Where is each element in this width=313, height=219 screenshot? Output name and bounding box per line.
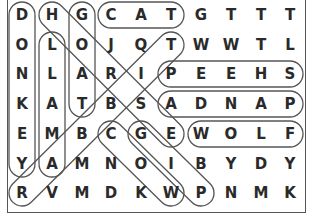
grid-cell[interactable]: Y — [277, 151, 303, 177]
grid-cell[interactable]: J — [98, 32, 124, 58]
grid-cell[interactable]: Q — [128, 32, 154, 58]
grid-cell[interactable]: A — [158, 91, 184, 117]
grid-cell[interactable]: L — [277, 32, 303, 58]
grid-cell[interactable]: W — [218, 32, 244, 58]
grid-cell[interactable]: O — [128, 151, 154, 177]
grid-cell[interactable]: R — [98, 61, 124, 87]
grid-cell[interactable]: O — [9, 32, 35, 58]
grid-cell[interactable]: M — [69, 180, 95, 206]
grid-cell[interactable]: I — [158, 151, 184, 177]
grid-cell[interactable]: E — [158, 121, 184, 147]
grid-cell[interactable]: G — [188, 2, 214, 28]
grid-cell[interactable]: T — [158, 2, 184, 28]
grid-cell[interactable]: S — [277, 61, 303, 87]
grid-cell[interactable]: M — [39, 121, 65, 147]
grid-cell[interactable]: A — [39, 91, 65, 117]
grid-cell[interactable]: B — [69, 121, 95, 147]
grid-cell[interactable]: D — [188, 91, 214, 117]
grid-cell[interactable]: M — [69, 151, 95, 177]
grid-cell[interactable]: T — [158, 32, 184, 58]
grid-cell[interactable]: R — [9, 180, 35, 206]
grid-cell[interactable]: G — [128, 121, 154, 147]
grid-cell[interactable]: B — [188, 151, 214, 177]
grid-cell[interactable]: L — [39, 61, 65, 87]
grid-cell[interactable]: A — [39, 151, 65, 177]
grid-cell[interactable]: M — [248, 180, 274, 206]
grid-cell[interactable]: G — [69, 2, 95, 28]
grid-cell[interactable]: A — [128, 2, 154, 28]
grid-cell[interactable]: Y — [218, 151, 244, 177]
grid-cell[interactable]: B — [98, 91, 124, 117]
grid-cell[interactable]: D — [9, 2, 35, 28]
grid-cell[interactable]: A — [248, 91, 274, 117]
grid-cell[interactable]: T — [248, 32, 274, 58]
grid-cell[interactable]: N — [9, 61, 35, 87]
grid-cell[interactable]: T — [248, 2, 274, 28]
grid-cell[interactable]: T — [218, 2, 244, 28]
grid-cell[interactable]: P — [188, 180, 214, 206]
word-search-board: DHGCATGTTTOLOJQTWWTLNLARIPEEHSKATBSADNAP… — [0, 0, 313, 219]
grid-cell[interactable]: W — [188, 121, 214, 147]
grid-cell[interactable]: O — [218, 121, 244, 147]
grid-cell[interactable]: F — [277, 121, 303, 147]
grid-cell[interactable]: A — [69, 61, 95, 87]
grid-cell[interactable]: C — [98, 2, 124, 28]
grid-cell[interactable]: T — [69, 91, 95, 117]
grid-cell[interactable]: E — [218, 61, 244, 87]
grid-cell[interactable]: H — [39, 2, 65, 28]
grid-cell[interactable]: E — [9, 121, 35, 147]
grid-cell[interactable]: D — [248, 151, 274, 177]
grid-cell[interactable]: P — [158, 61, 184, 87]
grid-cell[interactable]: K — [277, 180, 303, 206]
grid-cell[interactable]: Y — [9, 151, 35, 177]
grid-cell[interactable]: T — [277, 2, 303, 28]
grid-cell[interactable]: L — [39, 32, 65, 58]
grid-cell[interactable]: H — [248, 61, 274, 87]
grid-cell[interactable]: D — [98, 180, 124, 206]
grid-cell[interactable]: L — [248, 121, 274, 147]
grid-cell[interactable]: W — [188, 32, 214, 58]
grid-cell[interactable]: P — [277, 91, 303, 117]
grid-cell[interactable]: C — [98, 121, 124, 147]
grid-cell[interactable]: E — [188, 61, 214, 87]
grid-cell[interactable]: V — [39, 180, 65, 206]
grid-cell[interactable]: K — [128, 180, 154, 206]
grid-cell[interactable]: S — [128, 91, 154, 117]
grid-cell[interactable]: O — [69, 32, 95, 58]
grid-cell[interactable]: N — [98, 151, 124, 177]
grid-cell[interactable]: N — [218, 180, 244, 206]
grid-cell[interactable]: N — [218, 91, 244, 117]
grid-cell[interactable]: K — [9, 91, 35, 117]
grid-cell[interactable]: W — [158, 180, 184, 206]
grid-cell[interactable]: I — [128, 61, 154, 87]
